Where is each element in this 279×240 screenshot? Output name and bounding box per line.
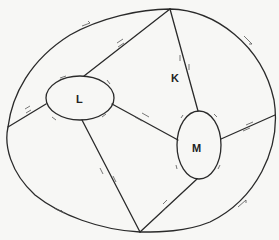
edge-M-to-bottom: [140, 179, 197, 232]
diagram-canvas: K L M: [0, 0, 279, 240]
region-label-L: L: [76, 93, 83, 105]
edge-M-to-right: [221, 115, 275, 139]
edge-top-to-M: [170, 9, 198, 111]
arrow-markings: [25, 21, 253, 213]
region-label-K: K: [171, 72, 179, 84]
edge-L-to-bottom: [82, 120, 140, 232]
region-label-M: M: [192, 142, 201, 154]
edge-L-to-M: [112, 104, 178, 140]
edge-top-to-L: [84, 9, 170, 76]
